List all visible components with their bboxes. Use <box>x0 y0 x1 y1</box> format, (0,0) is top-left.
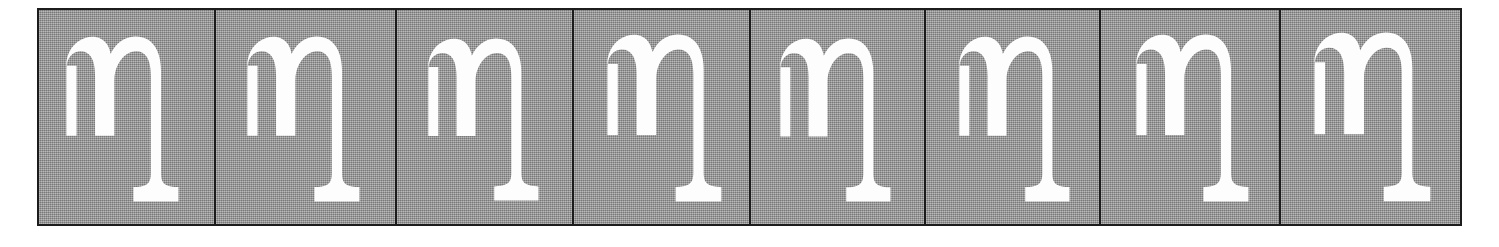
glyph-container <box>1281 10 1460 224</box>
eta-glyph-icon <box>777 38 893 204</box>
eta-glyph-icon <box>63 36 181 204</box>
eta-sample-3[interactable] <box>397 10 574 224</box>
eta-sample-1[interactable] <box>39 10 216 224</box>
glyph-container <box>574 10 749 224</box>
eta-glyph-icon <box>244 36 362 204</box>
glyph-container <box>397 10 572 224</box>
eta-sample-7[interactable] <box>1101 10 1281 224</box>
eta-sample-8[interactable] <box>1281 10 1460 224</box>
glyph-container <box>1101 10 1279 224</box>
eta-sample-strip <box>37 8 1462 226</box>
glyph-container <box>751 10 924 224</box>
eta-sample-6[interactable] <box>926 10 1101 224</box>
eta-glyph-icon <box>425 38 541 203</box>
eta-glyph-icon <box>956 36 1072 204</box>
eta-glyph-icon <box>1133 34 1251 204</box>
page-canvas <box>0 0 1499 247</box>
glyph-container <box>216 10 395 224</box>
eta-glyph-icon <box>1311 32 1433 204</box>
eta-sample-4[interactable] <box>574 10 751 224</box>
eta-sample-2[interactable] <box>216 10 397 224</box>
eta-glyph-icon <box>604 34 724 204</box>
glyph-container <box>39 10 214 224</box>
glyph-container <box>926 10 1099 224</box>
eta-sample-5[interactable] <box>751 10 926 224</box>
